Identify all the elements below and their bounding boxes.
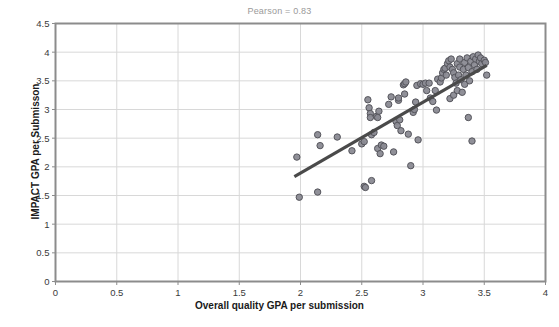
svg-text:1: 1	[175, 287, 180, 298]
svg-text:2: 2	[298, 287, 303, 298]
svg-text:0: 0	[44, 276, 49, 287]
y-axis-title: IMPACT GPA per Submisson	[30, 42, 41, 262]
svg-text:4: 4	[543, 287, 548, 298]
svg-text:3: 3	[44, 104, 49, 115]
svg-text:3: 3	[420, 287, 425, 298]
data-points	[294, 52, 490, 201]
svg-text:3.5: 3.5	[478, 287, 491, 298]
svg-text:1: 1	[44, 219, 49, 230]
plot-canvas: 00.511.522.533.54 00.511.522.533.544.5	[0, 0, 559, 327]
svg-text:4: 4	[44, 47, 49, 58]
svg-text:0.5: 0.5	[110, 287, 123, 298]
svg-text:1.5: 1.5	[233, 287, 246, 298]
x-axis-tick-labels: 00.511.522.533.54	[53, 282, 548, 298]
svg-text:4.5: 4.5	[36, 18, 49, 29]
svg-text:2.5: 2.5	[355, 287, 368, 298]
x-axis-title: Overall quality GPA per submission	[0, 300, 559, 311]
scatter-chart: Pearson = 0.83 00.511.522.533.54 00.511.…	[0, 0, 559, 327]
trend-line	[294, 65, 486, 176]
svg-text:2: 2	[44, 161, 49, 172]
svg-text:0: 0	[53, 287, 58, 298]
